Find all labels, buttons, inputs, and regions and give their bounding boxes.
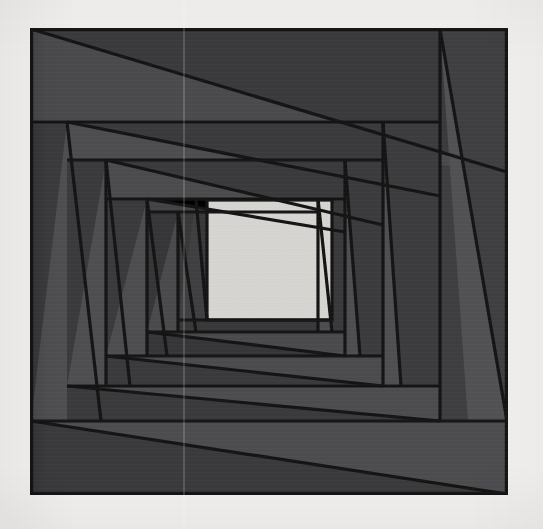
nested-squares-illustration [0,0,543,529]
plate-tone-overlay [30,28,508,495]
artwork-canvas [0,0,543,529]
